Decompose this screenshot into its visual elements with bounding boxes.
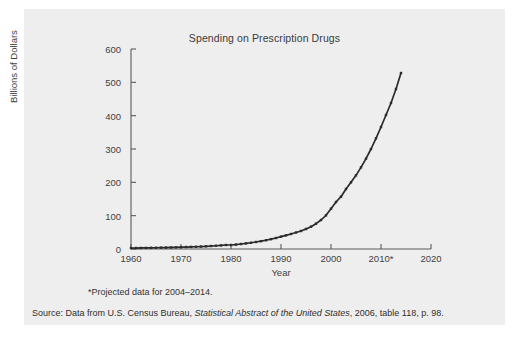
y-axis-ticks [131,49,136,249]
data-point-marker [190,246,192,248]
data-point-marker [195,246,197,248]
y-axis-title: Billions of Dollars [8,30,19,103]
figure-panel: Spending on Prescription Drugs 600 500 4… [24,9,505,325]
data-point-marker [285,234,287,236]
data-point-marker [340,195,342,197]
data-point-marker [345,188,347,190]
data-point-marker [350,181,352,183]
data-point-marker [265,239,267,241]
data-point-marker [310,225,312,227]
data-point-marker [395,88,397,90]
data-point-marker [175,246,177,248]
data-point-marker [400,72,402,74]
data-point-marker [365,157,367,159]
data-point-marker [305,228,307,230]
data-point-marker [250,242,252,244]
data-point-marker [375,137,377,139]
data-point-marker [330,207,332,209]
source-publication-title: Statistical Abstract of the United State… [195,308,350,318]
y-tick-label: 200 [87,177,121,188]
source-citation: Source: Data from U.S. Census Bureau, St… [32,308,502,318]
data-point-marker [315,222,317,224]
data-point-marker [275,237,277,239]
data-point-marker [260,240,262,242]
data-series-line [131,73,401,248]
y-axis-tick-labels: 600 500 400 300 200 100 0 [87,49,121,249]
source-prefix: Source: Data from U.S. Census Bureau, [32,308,195,318]
data-point-marker [185,246,187,248]
data-point-marker [370,148,372,150]
data-point-marker [335,201,337,203]
source-suffix: , 2006, table 118, p. 98. [350,308,444,318]
data-point-marker [135,247,137,249]
data-point-marker [225,244,227,246]
data-point-marker [300,230,302,232]
projected-data-footnote: *Projected data for 2004–2014. [88,287,213,297]
data-point-marker [220,244,222,246]
data-point-marker [155,247,157,249]
data-point-marker [145,247,147,249]
data-point-marker [290,233,292,235]
data-point-marker [200,245,202,247]
data-point-marker [215,245,217,247]
data-point-marker [255,241,257,243]
data-point-marker [380,126,382,128]
data-point-marker [180,246,182,248]
data-point-marker [205,245,207,247]
data-point-marker [235,243,237,245]
data-point-marker [390,102,392,104]
data-point-marker [240,243,242,245]
chart-title: Spending on Prescription Drugs [24,32,505,44]
plot-area [131,49,431,249]
data-point-marker [130,247,132,249]
data-point-marker [230,244,232,246]
x-axis-tick-labels: 1960 1970 1980 1990 2000 2010* 2020 [131,253,431,267]
axis-lines [131,49,431,249]
data-point-marker [325,214,327,216]
data-point-marker [385,114,387,116]
data-point-marker [210,245,212,247]
data-point-marker [150,247,152,249]
chart-plot-svg [131,49,431,249]
data-point-marker [170,246,172,248]
data-point-marker [295,231,297,233]
data-point-marker [360,166,362,168]
y-tick-label: 600 [87,44,121,55]
data-point-marker [320,219,322,221]
y-tick-label: 300 [87,144,121,155]
data-point-marker [160,246,162,248]
y-tick-label: 400 [87,110,121,121]
x-axis-title: Year [131,267,431,278]
data-point-marker [280,235,282,237]
data-point-marker [245,242,247,244]
y-tick-label: 500 [87,77,121,88]
data-point-marker [140,247,142,249]
data-series-markers [130,72,402,249]
y-tick-label: 100 [87,210,121,221]
data-point-marker [270,238,272,240]
data-point-marker [165,246,167,248]
data-point-marker [355,174,357,176]
x-tick-label: 2020 [401,253,461,264]
